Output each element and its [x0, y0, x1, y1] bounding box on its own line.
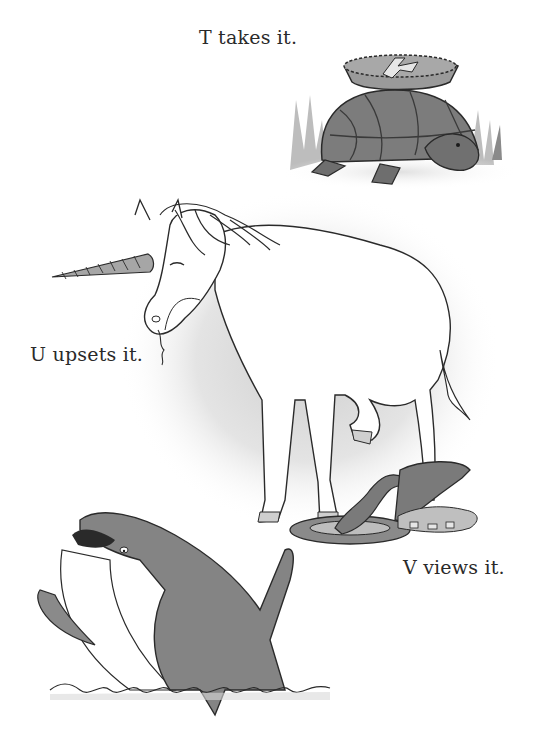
caption-v: V views it. — [403, 556, 505, 578]
overturned-pie-tin-icon — [395, 462, 477, 532]
illustrations — [0, 0, 538, 737]
unicorn-horn-icon — [52, 254, 154, 279]
caption-t: T takes it. — [199, 26, 297, 48]
turtle-illustration — [280, 55, 520, 190]
caption-u: U upsets it. — [30, 343, 143, 365]
book-page: T takes it. U upsets it. V views it. — [0, 0, 538, 737]
whale-illustration — [38, 513, 330, 715]
pie-icon — [344, 55, 458, 90]
